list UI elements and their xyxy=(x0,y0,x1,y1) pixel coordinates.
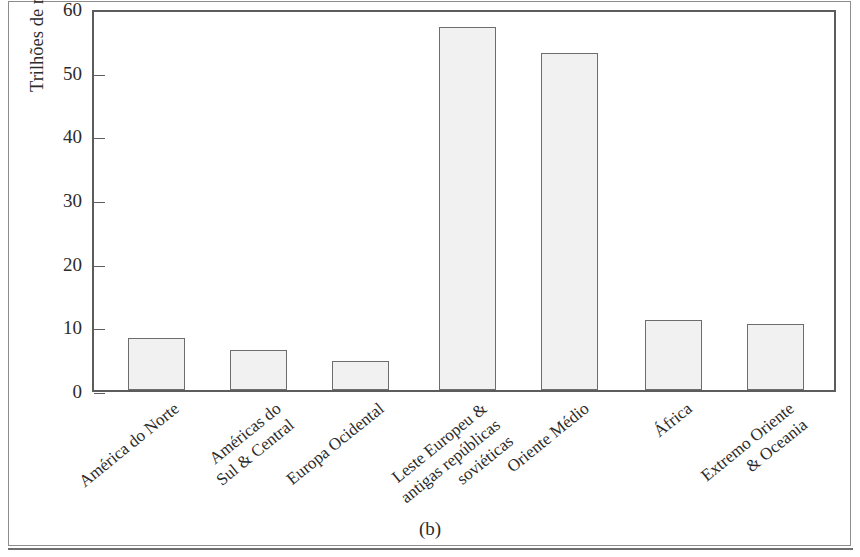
x-axis-label-line: África xyxy=(650,399,696,441)
bar xyxy=(439,27,496,390)
bar xyxy=(128,338,185,390)
y-axis-tick xyxy=(94,329,105,330)
y-axis-tick xyxy=(94,202,105,203)
y-axis-tick-label: 40 xyxy=(0,127,82,146)
bar xyxy=(541,53,598,390)
bar xyxy=(230,350,287,390)
y-axis-tick-label: 10 xyxy=(0,318,82,337)
y-axis-tick-label: 60 xyxy=(0,0,82,19)
figure-caption: (b) xyxy=(0,518,860,540)
y-axis-tick-label: 30 xyxy=(0,191,82,210)
figure-panel: Trilhões de metros cúbicos 0102030405060… xyxy=(0,0,860,557)
y-axis-tick xyxy=(94,11,105,12)
x-axis-label-line: Oriente Médio xyxy=(503,399,592,476)
bar xyxy=(332,361,389,390)
y-axis-tick xyxy=(94,138,105,139)
bar xyxy=(645,320,702,390)
x-axis-tick-labels: América do NorteAméricas doSul & Central… xyxy=(0,392,860,522)
y-axis-tick-label: 50 xyxy=(0,64,82,83)
x-axis-label-line: Europa Ocidental xyxy=(283,399,388,489)
bar xyxy=(747,324,804,390)
y-axis-tick xyxy=(94,75,105,76)
y-axis-tick xyxy=(94,266,105,267)
y-axis-tick-label: 20 xyxy=(0,255,82,274)
plot-area xyxy=(92,10,836,392)
x-axis-label-line: América do Norte xyxy=(75,399,182,491)
